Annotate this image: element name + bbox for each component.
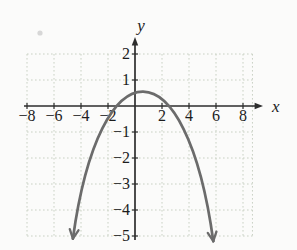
y-axis-arrowhead	[132, 37, 138, 45]
curve-left-arrowhead	[70, 229, 73, 239]
x-axis-arrowhead	[255, 103, 263, 109]
parabola-curve	[70, 92, 217, 242]
x-tick-label: 2	[158, 107, 166, 124]
x-tick-label: −4	[72, 107, 89, 124]
y-tick-label: 2	[122, 45, 130, 62]
x-tick-label: 6	[212, 107, 220, 124]
x-tick-label: 8	[239, 107, 247, 124]
x-tick-label: −6	[45, 107, 62, 124]
y-tick-label: −3	[113, 175, 130, 192]
x-tick-label: −8	[18, 107, 35, 124]
y-tick-label: −2	[113, 149, 130, 166]
graph-figure: −8−6−4−2246821−1−2−3−4−5 x y	[0, 0, 297, 250]
x-tick-label: 4	[185, 107, 193, 124]
y-tick-label: −1	[113, 123, 130, 140]
x-axis-label: x	[271, 97, 280, 116]
ticks-and-tick-labels: −8−6−4−2246821−1−2−3−4−5	[18, 45, 247, 244]
y-tick-label: −5	[113, 227, 130, 244]
curve-right-arrowhead	[213, 232, 216, 241]
grid	[27, 54, 252, 236]
y-tick-label: 1	[122, 71, 130, 88]
graph-canvas: −8−6−4−2246821−1−2−3−4−5 x y	[0, 0, 297, 250]
y-tick-label: −4	[113, 201, 130, 218]
scan-artifact-dot	[37, 30, 42, 35]
y-axis-label: y	[135, 16, 145, 35]
